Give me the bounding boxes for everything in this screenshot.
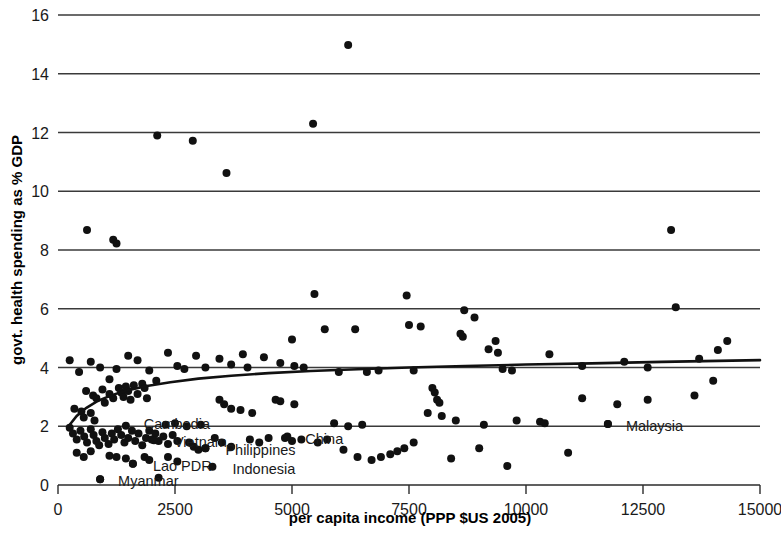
data-point bbox=[70, 405, 78, 413]
data-point bbox=[393, 447, 401, 455]
y-tick-label-10: 10 bbox=[31, 183, 49, 200]
y-tick-label-2: 2 bbox=[40, 418, 49, 435]
data-point bbox=[134, 390, 142, 398]
data-point bbox=[723, 337, 731, 345]
data-point bbox=[564, 449, 572, 457]
data-point bbox=[714, 346, 722, 354]
data-point bbox=[145, 366, 153, 374]
data-point bbox=[265, 434, 273, 442]
annotated-point-lao-pdr bbox=[129, 460, 137, 468]
data-point bbox=[410, 438, 418, 446]
data-point bbox=[124, 352, 132, 360]
data-point bbox=[485, 345, 493, 353]
data-point bbox=[276, 359, 284, 367]
data-point bbox=[164, 440, 172, 448]
data-point bbox=[105, 375, 113, 383]
data-point bbox=[66, 356, 74, 364]
data-point bbox=[644, 396, 652, 404]
data-point bbox=[435, 399, 443, 407]
annotated-point-vietnam bbox=[150, 436, 158, 444]
data-point bbox=[173, 362, 181, 370]
data-point bbox=[227, 361, 235, 369]
data-point bbox=[344, 41, 352, 49]
data-point bbox=[75, 368, 83, 376]
data-point bbox=[122, 455, 130, 463]
data-point bbox=[431, 388, 439, 396]
data-point bbox=[403, 292, 411, 300]
data-point bbox=[82, 387, 90, 395]
data-point bbox=[400, 444, 408, 452]
data-point bbox=[475, 444, 483, 452]
data-point bbox=[189, 137, 197, 145]
data-point bbox=[73, 435, 81, 443]
data-point bbox=[290, 362, 298, 370]
data-point bbox=[180, 365, 188, 373]
data-point bbox=[386, 450, 394, 458]
data-point bbox=[644, 364, 652, 372]
data-point bbox=[73, 449, 81, 457]
x-tick-label-15000: 15000 bbox=[738, 501, 781, 518]
data-point bbox=[351, 325, 359, 333]
data-point bbox=[91, 416, 99, 424]
annotated-point-malaysia bbox=[604, 420, 612, 428]
data-point bbox=[438, 412, 446, 420]
data-point bbox=[368, 456, 376, 464]
data-point bbox=[159, 433, 167, 441]
data-point bbox=[503, 462, 511, 470]
data-point bbox=[672, 303, 680, 311]
data-point bbox=[164, 349, 172, 357]
country-label-china: China bbox=[305, 431, 344, 447]
data-point bbox=[405, 321, 413, 329]
data-point bbox=[492, 337, 500, 345]
data-point bbox=[417, 322, 425, 330]
x-tick-label-12500: 12500 bbox=[621, 501, 666, 518]
country-label-myanmar: Myanmar bbox=[118, 473, 179, 489]
data-point bbox=[297, 435, 305, 443]
data-point bbox=[138, 441, 146, 449]
data-point bbox=[113, 240, 121, 248]
data-point bbox=[354, 453, 362, 461]
data-point bbox=[110, 435, 118, 443]
annotated-point-china bbox=[283, 433, 291, 441]
data-point bbox=[494, 349, 502, 357]
data-point bbox=[248, 409, 256, 417]
data-point bbox=[237, 406, 245, 414]
data-point bbox=[117, 431, 125, 439]
y-tick-label-0: 0 bbox=[40, 477, 49, 494]
data-point bbox=[143, 394, 151, 402]
data-point bbox=[667, 226, 675, 234]
data-point bbox=[288, 336, 296, 344]
y-tick-label-6: 6 bbox=[40, 301, 49, 318]
data-point bbox=[227, 405, 235, 413]
data-point bbox=[135, 430, 143, 438]
country-label-cambodia: Cambodia bbox=[144, 416, 211, 432]
data-point bbox=[690, 391, 698, 399]
data-point bbox=[98, 386, 106, 394]
data-point bbox=[424, 409, 432, 417]
data-point bbox=[541, 419, 549, 427]
data-point bbox=[578, 394, 586, 402]
annotated-point-myanmar bbox=[96, 475, 104, 483]
chart-figure: 0246810121416 02500500075001000012500150… bbox=[0, 0, 781, 545]
data-point bbox=[95, 441, 103, 449]
data-point bbox=[447, 455, 455, 463]
data-point bbox=[215, 355, 223, 363]
data-point bbox=[330, 419, 338, 427]
annotated-point-philippines bbox=[201, 444, 209, 452]
data-point bbox=[452, 416, 460, 424]
country-label-philippines: Philippines bbox=[225, 442, 295, 458]
data-point bbox=[131, 437, 139, 445]
data-point bbox=[124, 434, 132, 442]
data-point bbox=[134, 356, 142, 364]
data-point bbox=[339, 446, 347, 454]
data-point bbox=[260, 353, 268, 361]
scatter-plot-svg: 0246810121416 02500500075001000012500150… bbox=[0, 0, 781, 545]
data-point bbox=[239, 350, 247, 358]
y-axis-title: govt. health spending as % GDP bbox=[8, 135, 25, 365]
data-point bbox=[480, 421, 488, 429]
data-point bbox=[290, 400, 298, 408]
data-point bbox=[545, 350, 553, 358]
y-tick-label-12: 12 bbox=[31, 125, 49, 142]
country-label-lao-pdr: Lao PDR bbox=[153, 458, 212, 474]
data-point bbox=[471, 314, 479, 322]
